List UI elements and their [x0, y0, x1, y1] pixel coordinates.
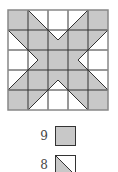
legend-item-half-square: 8	[0, 155, 118, 172]
grid-cell-full	[28, 70, 48, 90]
grid-cell-full	[68, 30, 88, 50]
grid-cell-quarter-top-white	[48, 30, 68, 50]
grid-cell-half-lr-trbl	[68, 10, 88, 30]
quilt-grid-diagram	[0, 0, 118, 118]
grid-cell-quarter-right-white	[68, 50, 88, 70]
half-square-triangle-swatch-icon	[55, 155, 76, 172]
legend-count-full-square: 9	[38, 126, 50, 146]
grid-cell-half-ur-tlbr	[8, 30, 28, 50]
grid-cell-full	[8, 90, 28, 110]
grid-cell-quarter-left-white	[28, 50, 48, 70]
grid-cell-half-ul-trbl	[28, 90, 48, 110]
grid-cell-full	[8, 10, 28, 30]
legend-item-full-square: 9	[0, 126, 118, 146]
grid-cell-half-ll-tlbr	[28, 10, 48, 30]
grid-cell-half-ul-trbl	[88, 30, 108, 50]
grid-cell-full	[88, 10, 108, 30]
full-square-swatch-icon	[55, 126, 76, 147]
grid-cell-full	[48, 50, 68, 70]
grid-cell-half-ll-tlbr	[88, 70, 108, 90]
grid-cell-half-ur-tlbr	[68, 90, 88, 110]
grid-cell-full	[28, 30, 48, 50]
grid-cell-half-lr-trbl	[8, 70, 28, 90]
grid-cell-full	[68, 70, 88, 90]
grid-cell-full	[88, 90, 108, 110]
grid-cell-quarter-bottom-white	[48, 70, 68, 90]
legend-count-half-square: 8	[38, 155, 50, 172]
